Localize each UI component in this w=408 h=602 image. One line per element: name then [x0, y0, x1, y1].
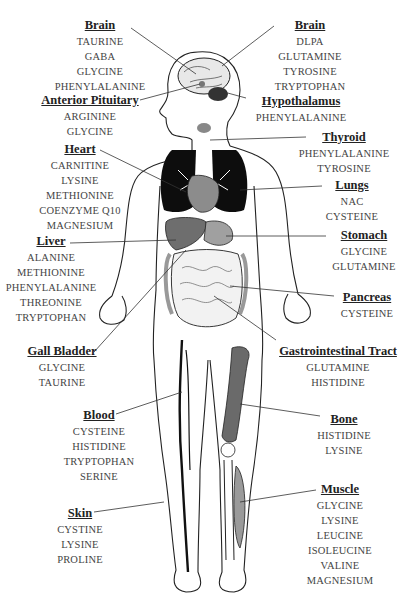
label-item: THREONINE	[4, 295, 98, 310]
label-item: METHIONINE	[4, 265, 98, 280]
label-item: TAURINE	[24, 375, 100, 390]
label-title: Lungs	[312, 178, 392, 193]
label-item: MAGNESIUM	[32, 218, 128, 233]
label-item: SERINE	[56, 469, 142, 484]
label-item: ISOLEUCINE	[300, 543, 380, 558]
label-item: HISTIDINE	[308, 428, 380, 443]
label-title: Stomach	[322, 228, 406, 243]
label-item: VALINE	[300, 558, 380, 573]
label-title: Brain	[254, 18, 366, 33]
label-item: METHIONINE	[32, 188, 128, 203]
label-muscle: Muscle GLYCINE LYSINE LEUCINE ISOLEUCINE…	[300, 482, 380, 588]
label-item: CYSTEINE	[312, 209, 392, 224]
label-item: CYSTINE	[50, 522, 110, 537]
calf-muscle	[234, 466, 245, 548]
label-item: TRYPTOPHAN	[254, 79, 366, 94]
label-item: CYSTEINE	[56, 424, 142, 439]
label-item: TYROSINE	[254, 64, 366, 79]
label-item: COENZYME Q10	[32, 203, 128, 218]
label-thyroid: Thyroid PHENYLALANINE TYROSINE	[288, 130, 400, 176]
label-item: ARGININE	[40, 109, 140, 124]
label-title: Muscle	[300, 482, 380, 497]
label-stomach: Stomach GLYCINE GLUTAMINE	[322, 228, 406, 274]
label-item: PHENYLALANINE	[246, 110, 356, 125]
label-title: Hypothalamus	[246, 94, 356, 109]
label-item: GLUTAMINE	[276, 360, 400, 375]
cerebellum-organ	[208, 87, 228, 101]
label-title: Thyroid	[288, 130, 400, 145]
label-brain-right: Brain DLPA GLUTAMINE TYROSINE TRYPTOPHAN	[254, 18, 366, 94]
label-item: LYSINE	[50, 537, 110, 552]
label-title: Heart	[32, 142, 128, 157]
stomach-organ	[204, 221, 233, 245]
label-item: GABA	[40, 49, 160, 64]
label-item: LEUCINE	[300, 528, 380, 543]
label-item: LYSINE	[32, 173, 128, 188]
label-hypothalamus: Hypothalamus PHENYLALANINE	[246, 94, 356, 125]
femur-bone	[222, 347, 249, 442]
label-item: NAC	[312, 194, 392, 209]
label-heart: Heart CARNITINE LYSINE METHIONINE COENZY…	[32, 142, 128, 233]
label-skin: Skin CYSTINE LYSINE PROLINE	[50, 506, 110, 567]
label-item: GLYCINE	[40, 124, 140, 139]
label-item: GLYCINE	[40, 64, 160, 79]
label-title: Liver	[4, 234, 98, 249]
label-lungs: Lungs NAC CYSTEINE	[312, 178, 392, 224]
label-item: GLYCINE	[24, 360, 100, 375]
label-title: Bone	[308, 412, 380, 427]
intestines-organ	[171, 250, 242, 327]
label-title: Brain	[40, 18, 160, 33]
label-bone: Bone HISTIDINE LYSINE	[308, 412, 380, 458]
label-title: Pancreas	[330, 290, 404, 305]
label-item: LYSINE	[308, 443, 380, 458]
label-item: TAURINE	[40, 34, 160, 49]
label-item: HISTIDINE	[276, 375, 400, 390]
label-title: Skin	[50, 506, 110, 521]
label-anterior-pituitary: Anterior Pituitary ARGININE GLYCINE	[40, 93, 140, 139]
blood-vessel	[180, 340, 188, 572]
label-item: MAGNESIUM	[300, 573, 380, 588]
label-blood: Blood CYSTEINE HISTIDINE TRYPTOPHAN SERI…	[56, 408, 142, 484]
label-item: TRYPTOPHAN	[4, 310, 98, 325]
thyroid-organ	[197, 123, 211, 133]
label-item: LYSINE	[300, 513, 380, 528]
label-item: TRYPTOPHAN	[56, 454, 142, 469]
label-item: GLYCINE	[322, 244, 406, 259]
label-item: GLYCINE	[300, 498, 380, 513]
label-title: Anterior Pituitary	[40, 93, 140, 108]
label-item: HISTIDINE	[56, 439, 142, 454]
label-item: PHENYLALANINE	[40, 79, 160, 94]
label-pancreas: Pancreas CYSTEINE	[330, 290, 404, 321]
label-item: DLPA	[254, 34, 366, 49]
label-gall-bladder: Gall Bladder GLYCINE TAURINE	[24, 344, 100, 390]
label-item: CYSTEINE	[330, 306, 404, 321]
label-item: CARNITINE	[32, 158, 128, 173]
label-item: GLUTAMINE	[254, 49, 366, 64]
label-item: GLUTAMINE	[322, 259, 406, 274]
kneecap-bone	[221, 443, 235, 457]
label-item: TYROSINE	[288, 161, 400, 176]
label-title: Gall Bladder	[24, 344, 100, 359]
liver-organ	[165, 218, 206, 251]
right-lung-organ	[212, 150, 247, 212]
label-item: PROLINE	[50, 552, 110, 567]
label-gastrointestinal-tract: Gastrointestinal Tract GLUTAMINE HISTIDI…	[276, 344, 400, 390]
label-brain-left: Brain TAURINE GABA GLYCINE PHENYLALANINE	[40, 18, 160, 94]
label-liver: Liver ALANINE METHIONINE PHENYLALANINE T…	[4, 234, 98, 325]
label-title: Blood	[56, 408, 142, 423]
label-item: ALANINE	[4, 250, 98, 265]
label-item: PHENYLALANINE	[288, 146, 400, 161]
label-title: Gastrointestinal Tract	[276, 344, 400, 359]
label-item: PHENYLALANINE	[4, 280, 98, 295]
